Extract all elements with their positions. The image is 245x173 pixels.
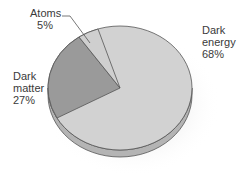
label-atoms-name: Atoms [30,7,60,19]
label-dark-matter-line1: Dark [13,70,44,82]
label-dark-matter-value: 27% [13,94,44,106]
label-atoms-value: 5% [30,19,60,31]
label-atoms: Atoms 5% [30,7,60,31]
label-dark-matter: Dark matter 27% [13,70,44,106]
label-dark-matter-line2: matter [13,82,44,94]
label-dark-energy-line1: Dark [202,24,236,36]
label-dark-energy-line2: energy [202,36,236,48]
label-dark-energy-value: 68% [202,48,236,60]
label-dark-energy: Dark energy 68% [202,24,236,60]
